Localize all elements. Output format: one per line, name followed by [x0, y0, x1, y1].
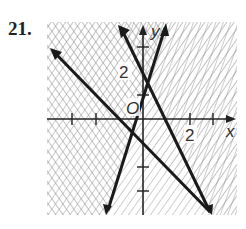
y-tick-label: 2	[119, 63, 128, 82]
x-axis-label: x	[225, 122, 235, 141]
x-tick-label: 2	[185, 126, 194, 145]
y-axis-label: y	[150, 22, 161, 41]
origin-label: O	[126, 99, 139, 118]
inequality-graph: 2 O y 2 x	[0, 0, 246, 229]
